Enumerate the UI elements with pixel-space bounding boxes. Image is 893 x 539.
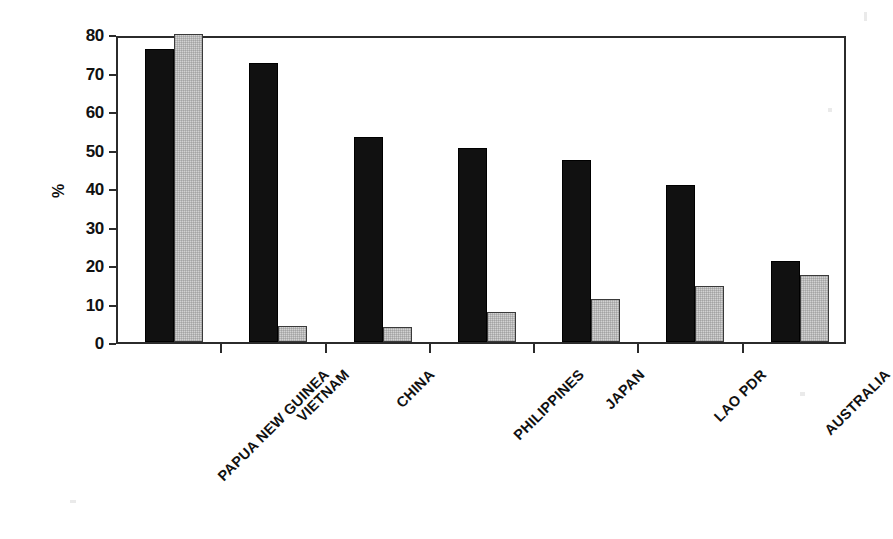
bar-group	[431, 38, 535, 342]
y-tick-label: 40	[68, 180, 104, 200]
bar-light	[174, 34, 203, 342]
bar-light	[487, 312, 516, 342]
bar-dark	[145, 49, 174, 342]
y-tick-label: 50	[68, 142, 104, 162]
y-tick-mark	[109, 189, 116, 191]
bar-dark	[249, 63, 278, 343]
plot-area	[116, 36, 846, 344]
y-tick-mark	[109, 151, 116, 153]
bar-group	[744, 38, 848, 342]
y-tick-mark	[109, 266, 116, 268]
x-category-label: CHINA	[393, 366, 437, 410]
y-tick-mark	[109, 305, 116, 307]
y-tick-mark	[109, 228, 116, 230]
bar-dark	[666, 185, 695, 342]
bar-group	[327, 38, 431, 342]
bar-group	[222, 38, 326, 342]
y-tick-mark	[109, 112, 116, 114]
x-tick-mark	[742, 344, 744, 353]
bar-dark	[458, 148, 487, 342]
x-category-label: PAPUA NEW GUINEA	[214, 366, 332, 484]
bar-light	[591, 299, 620, 343]
y-tick-label: 30	[68, 219, 104, 239]
x-category-label: PHILIPPINES	[510, 366, 587, 443]
x-tick-mark	[533, 344, 535, 353]
scan-speckle	[828, 108, 832, 112]
bar-light	[383, 327, 412, 342]
x-tick-mark	[429, 344, 431, 353]
bar-group	[535, 38, 639, 342]
bar-light	[695, 286, 724, 342]
x-tick-mark	[220, 344, 222, 353]
y-tick-mark	[109, 35, 116, 37]
x-tick-mark	[325, 344, 327, 353]
bar-light	[800, 275, 829, 342]
x-category-label: JAPAN	[602, 366, 648, 412]
y-axis-title: %	[50, 184, 68, 198]
y-tick-label: 10	[68, 296, 104, 316]
bar-light	[278, 326, 307, 342]
bar-group	[118, 38, 222, 342]
bar-dark	[771, 261, 800, 342]
x-tick-mark	[637, 344, 639, 353]
y-tick-mark	[109, 343, 116, 345]
bar-dark	[354, 137, 383, 342]
scan-speckle	[864, 12, 867, 21]
x-category-label: LAO PDR	[711, 366, 769, 424]
x-category-label: AUSTRALIA	[821, 366, 893, 438]
bar-dark	[562, 160, 591, 342]
y-tick-mark	[109, 74, 116, 76]
y-tick-label: 80	[68, 26, 104, 46]
y-tick-label: 70	[68, 65, 104, 85]
scan-speckle	[800, 392, 805, 396]
y-tick-label: 0	[68, 334, 104, 354]
scan-speckle	[70, 500, 76, 503]
y-tick-label: 60	[68, 103, 104, 123]
y-tick-label: 20	[68, 257, 104, 277]
bar-group	[639, 38, 743, 342]
